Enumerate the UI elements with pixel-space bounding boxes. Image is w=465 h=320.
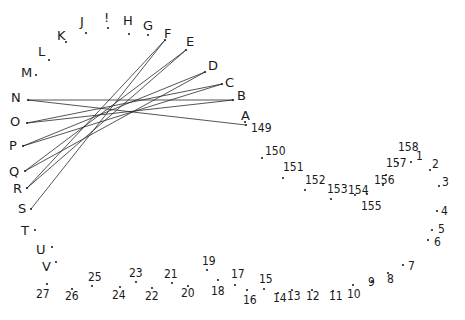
- dot-label-16: 16: [243, 293, 257, 307]
- dot-label-6: 6: [434, 235, 441, 249]
- dot-19: [206, 269, 208, 271]
- dot-label-156: 156: [374, 173, 395, 187]
- dot-label-11: 11: [329, 289, 343, 303]
- dot-label-17: 17: [231, 267, 245, 281]
- dot-label-12: 12: [306, 289, 320, 303]
- dot-label-7: 7: [408, 259, 415, 273]
- dot-label-Q: Q: [9, 164, 19, 179]
- dot-M: [35, 74, 37, 76]
- dot-21: [171, 282, 173, 284]
- dot-label-D: D: [208, 58, 218, 73]
- dot-label-J: J: [79, 14, 84, 29]
- dot-N: [27, 99, 29, 101]
- dot-18: [217, 279, 219, 281]
- dot-label-M: M: [21, 65, 32, 80]
- dot-10: [352, 284, 354, 286]
- dot-label-L: L: [38, 44, 46, 59]
- dot-25: [91, 285, 93, 287]
- dot-C: [221, 83, 223, 85]
- dot-label-19: 19: [202, 254, 216, 268]
- dot-2: [429, 169, 431, 171]
- dot-17: [234, 284, 236, 286]
- dot-label-151: 151: [283, 160, 304, 174]
- dot-label-15: 15: [259, 272, 273, 286]
- dot-label-25: 25: [88, 270, 102, 284]
- connect-the-dots-puzzle: ABCDEFGH!JKLMNOPQRSTUV123456789101112131…: [0, 0, 465, 320]
- dot-6: [427, 239, 429, 241]
- dot-7: [402, 264, 404, 266]
- dot-J: [85, 32, 87, 34]
- dot-label-21: 21: [164, 267, 178, 281]
- dot-O: [26, 122, 28, 124]
- dot-23: [135, 281, 137, 283]
- dot-label-T: T: [20, 223, 29, 238]
- dot-U: [51, 246, 53, 248]
- line-R-to-F: [27, 40, 165, 188]
- dot-points: ABCDEFGH!JKLMNOPQRSTUV123456789101112131…: [9, 10, 449, 307]
- line-R-to-E: [27, 50, 186, 188]
- dot-label-14: 14: [273, 291, 287, 305]
- dot-label-N: N: [11, 90, 21, 105]
- dot-label-149: 149: [251, 121, 272, 135]
- dot-label-152: 152: [305, 173, 326, 187]
- dot-label-P: P: [9, 138, 17, 153]
- dot-15: [263, 288, 265, 290]
- dot-label-24: 24: [112, 288, 126, 302]
- dot-label-8: 8: [387, 272, 394, 286]
- dot-label-9: 9: [368, 275, 375, 289]
- dot-R: [26, 187, 28, 189]
- dot-H: [128, 33, 130, 35]
- line-Q-to-E: [25, 50, 186, 171]
- dot-5: [431, 229, 433, 231]
- dot-G: [147, 34, 149, 36]
- dot-label-I: !: [104, 10, 109, 25]
- dot-label-V: V: [42, 259, 51, 274]
- dot-D: [204, 71, 206, 73]
- dot-label-150: 150: [265, 144, 286, 158]
- line-S-to-F: [31, 40, 165, 209]
- dot-label-R: R: [13, 181, 22, 196]
- dot-V: [55, 261, 57, 263]
- dot-label-C: C: [225, 75, 234, 90]
- dot-Q: [24, 170, 26, 172]
- dot-label-154: 154: [348, 183, 369, 197]
- dot-label-U: U: [36, 242, 46, 257]
- dot-label-S: S: [18, 201, 26, 216]
- dot-label-A: A: [241, 108, 250, 123]
- dot-label-158: 158: [398, 140, 419, 154]
- dot-P: [22, 145, 24, 147]
- dot-16: [246, 289, 248, 291]
- line-Q-to-D: [25, 72, 205, 171]
- dot-E: [185, 49, 187, 51]
- dot-151: [282, 177, 284, 179]
- dot-label-27: 27: [36, 287, 50, 301]
- dot-label-H: H: [123, 13, 133, 28]
- dot-L: [48, 59, 50, 61]
- dot-157: [385, 174, 387, 176]
- dot-I: [107, 27, 109, 29]
- dot-153: [330, 198, 332, 200]
- dot-27: [46, 283, 48, 285]
- dot-label-23: 23: [129, 266, 143, 280]
- line-P-to-D: [23, 72, 205, 146]
- dot-4: [436, 210, 438, 212]
- dot-label-153: 153: [327, 182, 348, 196]
- dot-3: [438, 185, 440, 187]
- dot-T: [34, 229, 36, 231]
- dot-label-K: K: [57, 28, 66, 43]
- dot-150: [261, 157, 263, 159]
- dot-label-155: 155: [361, 199, 382, 213]
- dot-158: [397, 162, 399, 164]
- dot-1: [410, 161, 412, 163]
- dot-label-13: 13: [287, 289, 301, 303]
- dot-label-2: 2: [432, 157, 439, 171]
- dot-label-18: 18: [211, 284, 225, 298]
- dot-155: [366, 193, 368, 195]
- dot-label-G: G: [143, 18, 153, 33]
- dot-label-157: 157: [386, 156, 407, 170]
- dot-label-3: 3: [442, 175, 449, 189]
- dot-152: [304, 189, 306, 191]
- dot-label-10: 10: [347, 287, 361, 301]
- dot-S: [30, 208, 32, 210]
- dot-label-B: B: [237, 88, 246, 103]
